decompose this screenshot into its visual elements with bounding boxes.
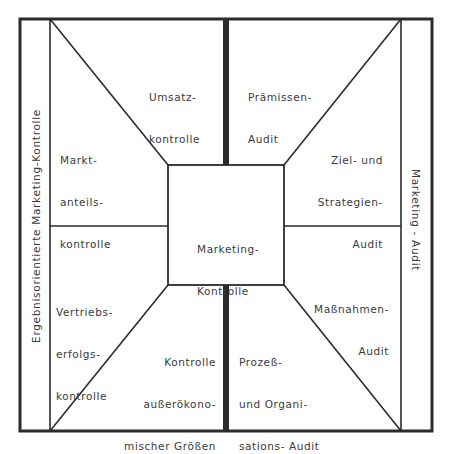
label-vertriebserfolgskontrolle: Vertriebs- erfolgs- kontrolle bbox=[56, 277, 113, 417]
label-line: Ziel- und bbox=[318, 153, 383, 167]
label-line: kontrolle bbox=[60, 237, 111, 251]
label-line: Vertriebs- bbox=[56, 305, 113, 319]
label-line: Audit bbox=[248, 132, 312, 146]
label-line: kontrolle bbox=[149, 132, 200, 146]
label-line: außerökono- bbox=[124, 397, 216, 411]
label-line: und Organi- bbox=[239, 397, 320, 411]
label-line: Audit bbox=[318, 237, 383, 251]
label-praemissen-audit: Prämissen- Audit bbox=[248, 62, 312, 160]
label-line: Marketing- bbox=[197, 242, 259, 256]
label-line: Strategien- bbox=[318, 195, 383, 209]
label-line: Prämissen- bbox=[248, 90, 312, 104]
label-line: Maßnahmen- bbox=[314, 302, 389, 316]
label-line: kontrolle bbox=[56, 389, 113, 403]
label-line: Markt- bbox=[60, 153, 111, 167]
label-line: Umsatz- bbox=[149, 90, 200, 104]
label-umsatzkontrolle: Umsatz- kontrolle bbox=[149, 62, 200, 160]
label-massnahmen-audit: Maßnahmen- Audit bbox=[314, 274, 389, 372]
label-line: anteils- bbox=[60, 195, 111, 209]
right-band-label: Marketing - Audit bbox=[410, 169, 422, 271]
label-prozess-organisations-audit: Prozeß- und Organi- sations- Audit bbox=[239, 327, 320, 454]
label-marktanteilskontrolle: Markt- anteils- kontrolle bbox=[60, 125, 111, 265]
label-line: sations- Audit bbox=[239, 439, 320, 453]
label-marketing-kontrolle: Marketing- Kontrolle bbox=[197, 214, 259, 312]
label-line: erfolgs- bbox=[56, 347, 113, 361]
label-line: Kontrolle bbox=[197, 284, 259, 298]
label-line: Audit bbox=[314, 344, 389, 358]
label-line: Prozeß- bbox=[239, 355, 320, 369]
label-line: mischer Größen bbox=[124, 439, 216, 453]
label-ziel-strategien-audit: Ziel- und Strategien- Audit bbox=[318, 125, 383, 265]
left-band-label: Ergebnisorientierte Marketing-Kontrolle bbox=[30, 109, 42, 343]
label-kontrolle-ausseroekonomischer-groessen: Kontrolle außerökono- mischer Größen bbox=[124, 327, 216, 454]
label-line: Kontrolle bbox=[124, 355, 216, 369]
